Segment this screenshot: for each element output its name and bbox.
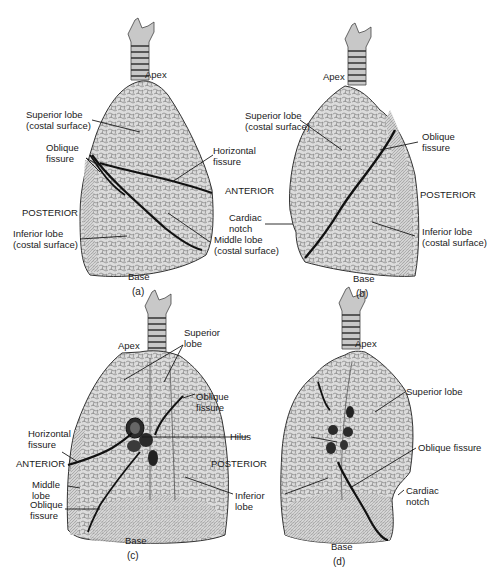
- label-inferior-lobe-c: Inferior lobe: [235, 491, 265, 512]
- label-middle-lobe-a: Middle lobe (costal surface): [214, 235, 279, 256]
- label-base-c: Base: [125, 536, 147, 547]
- label-superior-lobe-d: Superior lobe: [406, 387, 463, 398]
- label-base-b: Base: [353, 274, 375, 285]
- label-apex-a: Apex: [145, 70, 167, 81]
- caption-d: (d): [333, 556, 345, 567]
- panel-d-medial-left-lung: [281, 287, 416, 543]
- label-oblique-fissure-b: Oblique fissure: [422, 132, 455, 153]
- label-horizontal-fissure-a: Horizontal fissure: [213, 146, 256, 167]
- label-oblique-fissure-a: Oblique fissure: [46, 143, 79, 164]
- caption-a: (a): [132, 286, 144, 297]
- label-inferior-lobe-a: Inferior lobe (costal surface): [13, 229, 78, 250]
- label-base-d: Base: [331, 542, 353, 553]
- label-oblique-fissure-top-c: Oblique fissure: [196, 392, 229, 413]
- label-inferior-lobe-b: Inferior lobe (costal surface): [422, 227, 487, 248]
- caption-b: (b): [356, 288, 368, 299]
- panel-a-lateral-right-lung: [80, 18, 213, 276]
- label-posterior-b: POSTERIOR: [420, 190, 476, 201]
- label-apex-c: Apex: [118, 341, 140, 352]
- label-posterior-c: POSTERIOR: [211, 459, 267, 470]
- trachea-icon: [145, 290, 171, 352]
- label-base-a: Base: [128, 272, 150, 283]
- label-oblique-fissure-d: Oblique fissure: [418, 443, 481, 454]
- label-superior-lobe-b: Superior lobe (costal surface): [245, 111, 310, 132]
- label-posterior-a: POSTERIOR: [22, 208, 78, 219]
- label-hilus: Hilus: [230, 432, 251, 443]
- panel-b-lateral-left-lung: [265, 23, 419, 276]
- label-cardiac-notch-b: Cardiac notch: [229, 213, 262, 234]
- label-cardiac-notch-d: Cardiac notch: [406, 486, 439, 507]
- label-apex-d: Apex: [355, 339, 377, 350]
- label-horizontal-fissure-c: Horizontal fissure: [28, 429, 71, 450]
- trachea-icon: [345, 23, 371, 85]
- label-anterior-a: ANTERIOR: [225, 186, 274, 197]
- caption-c: (c): [127, 550, 139, 561]
- label-apex-b: Apex: [323, 72, 345, 83]
- label-superior-lobe-c: Superior lobe: [184, 328, 220, 349]
- panel-c-medial-right-lung: [62, 290, 248, 543]
- label-superior-lobe-a: Superior lobe (costal surface): [26, 110, 91, 131]
- label-anterior-c: ANTERIOR: [16, 459, 65, 470]
- label-middle-lobe-c: Middle lobe: [32, 480, 60, 501]
- label-oblique-fissure-bottom-c: Oblique fissure: [30, 500, 63, 521]
